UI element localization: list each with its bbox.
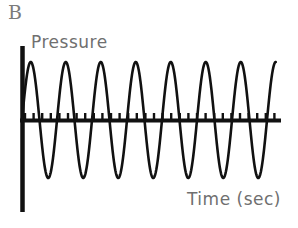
pressure-waveform-figure: B Pressure Time (sec)	[0, 0, 298, 228]
x-axis-tick-marks	[25, 113, 274, 119]
axes-group	[20, 46, 281, 212]
x-axis-title: Time (sec)	[187, 189, 281, 209]
panel-label: B	[8, 1, 22, 23]
y-axis-title: Pressure	[31, 32, 108, 52]
